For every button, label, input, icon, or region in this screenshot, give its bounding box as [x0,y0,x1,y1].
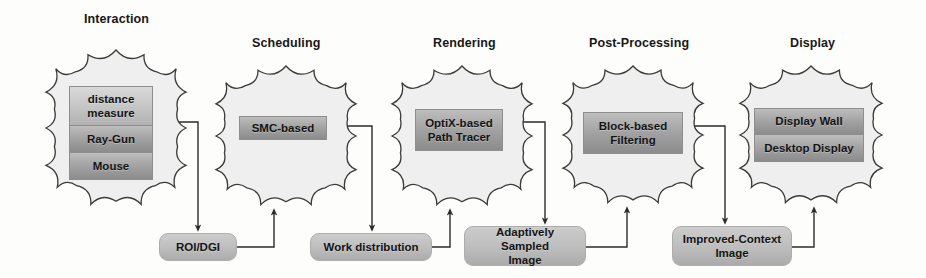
arrow-sampled-to-post [586,210,627,247]
cloud-item[interactable]: Ray-Gun [69,126,153,153]
cloud-items-interaction: distancemeasureRay-GunMouse [69,77,153,189]
arrow-improved-to-display [792,210,814,247]
stage-label-post-processing: Post-Processing [589,36,689,50]
arrow-roi-to-scheduling [237,212,274,247]
stage-label-display: Display [790,36,835,50]
cloud-item[interactable]: Desktop Display [754,135,864,162]
data-box[interactable]: Improved-ContextImage [672,226,792,266]
cloud-items-display: Display WallDesktop Display [754,108,864,162]
cloud-item[interactable]: Display Wall [754,108,864,135]
cloud-item[interactable]: distancemeasure [69,86,153,126]
cloud-items-rendering: OptiX-basedPath Tracer [415,109,503,151]
data-box[interactable]: ROI/DGI [159,233,237,261]
cloud-item[interactable]: Block-basedFiltering [583,112,683,154]
data-box[interactable]: Work distribution [310,233,432,261]
data-box[interactable]: Adaptively SampledImage [464,226,586,266]
cloud-items-scheduling: SMC-based [239,116,327,140]
cloud-item[interactable]: OptiX-basedPath Tracer [415,109,503,151]
cloud-items-post-processing: Block-basedFiltering [583,112,683,154]
stage-label-rendering: Rendering [433,36,496,50]
stage-label-interaction: Interaction [84,12,149,26]
stage-label-scheduling: Scheduling [252,36,320,50]
pipeline-diagram: InteractiondistancemeasureRay-GunMouseSc… [0,0,926,278]
cloud-item[interactable]: SMC-based [239,116,327,140]
arrow-work-to-rendering [432,212,450,247]
cloud-item[interactable]: Mouse [69,153,153,180]
